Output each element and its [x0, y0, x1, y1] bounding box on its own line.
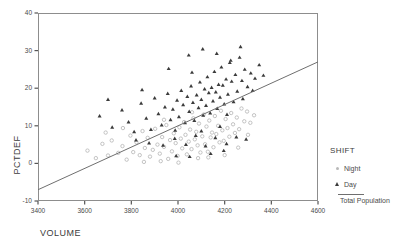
data-point	[187, 140, 190, 143]
data-point	[190, 70, 194, 73]
data-point	[209, 136, 212, 139]
data-point	[141, 129, 144, 132]
x-tick-label: 4400	[255, 207, 287, 214]
data-point	[190, 111, 193, 114]
data-point	[214, 90, 218, 93]
data-point	[190, 147, 193, 150]
data-point	[237, 127, 240, 130]
data-point	[110, 139, 113, 142]
data-point	[138, 153, 141, 156]
data-point	[228, 135, 231, 138]
data-point	[249, 71, 253, 74]
data-point	[230, 79, 234, 82]
data-point	[218, 141, 221, 144]
data-point	[188, 128, 191, 131]
data-point	[127, 120, 131, 123]
data-point	[246, 85, 250, 88]
y-tick-label: -10	[6, 197, 32, 204]
data-point	[210, 85, 214, 88]
data-point	[194, 134, 198, 137]
x-tick-label: 4000	[162, 207, 194, 214]
legend-trendline-label: Total Population	[340, 197, 396, 204]
y-tick-label: 10	[6, 122, 32, 129]
data-point	[160, 123, 164, 126]
data-point	[162, 118, 165, 121]
series-day	[98, 45, 266, 158]
data-point	[244, 137, 248, 140]
data-point	[187, 53, 191, 56]
data-point	[177, 161, 180, 164]
data-point	[189, 84, 193, 87]
data-point	[110, 125, 114, 128]
data-point	[196, 144, 199, 147]
data-point	[229, 58, 233, 61]
data-point	[224, 77, 228, 80]
x-tick-label: 3400	[22, 207, 54, 214]
y-axis-title: PCTDEF	[12, 125, 22, 185]
legend-item-night[interactable]: Night	[330, 162, 396, 174]
data-point	[174, 141, 177, 144]
y-tick-label: 30	[6, 47, 32, 54]
data-point	[158, 152, 161, 155]
y-tick-label: 40	[6, 9, 32, 16]
triangle-marker-icon	[330, 182, 344, 186]
data-point	[199, 97, 203, 100]
data-point	[177, 115, 181, 118]
data-point	[129, 134, 132, 137]
data-point	[199, 151, 202, 154]
data-point	[156, 112, 160, 115]
data-point	[205, 75, 209, 78]
series-night	[86, 107, 256, 165]
data-point	[213, 136, 217, 139]
data-point	[222, 149, 226, 152]
data-point	[143, 146, 146, 149]
data-point	[235, 116, 238, 119]
data-point	[147, 141, 151, 144]
data-point	[240, 79, 244, 82]
legend-item-day[interactable]: Day	[330, 178, 396, 190]
data-point	[181, 147, 184, 150]
legend-item-label: Day	[344, 181, 356, 188]
data-point	[121, 126, 124, 129]
data-point	[179, 137, 182, 140]
y-tick-label: 0	[6, 159, 32, 166]
data-point	[121, 144, 124, 147]
data-point	[215, 132, 218, 135]
data-point	[166, 91, 170, 94]
data-point	[257, 63, 261, 66]
data-point	[203, 87, 207, 90]
trendline-marker-icon	[338, 194, 364, 195]
data-point	[207, 156, 210, 159]
data-point	[231, 123, 234, 126]
data-point	[226, 126, 229, 129]
data-point	[156, 143, 159, 146]
data-point	[218, 95, 222, 98]
data-point	[181, 103, 185, 106]
data-point	[134, 138, 138, 141]
data-point	[212, 70, 216, 73]
data-point	[191, 101, 195, 104]
data-point	[206, 150, 209, 153]
data-point	[239, 45, 243, 48]
data-point	[142, 160, 145, 163]
data-point	[167, 157, 170, 160]
data-point	[185, 153, 188, 156]
trend-line	[38, 62, 318, 190]
data-point	[234, 135, 238, 138]
data-point	[199, 129, 203, 132]
data-point	[212, 146, 215, 149]
data-point	[195, 93, 199, 96]
data-point	[219, 65, 223, 68]
data-point	[148, 155, 151, 158]
data-point	[230, 111, 233, 114]
data-point	[243, 67, 247, 70]
data-point	[217, 82, 221, 85]
data-point	[184, 133, 187, 136]
data-point	[149, 128, 153, 131]
data-point	[210, 131, 213, 134]
data-point	[238, 55, 242, 58]
data-point	[211, 99, 215, 102]
data-point	[218, 125, 222, 128]
data-point	[223, 153, 226, 156]
data-point	[233, 131, 236, 134]
